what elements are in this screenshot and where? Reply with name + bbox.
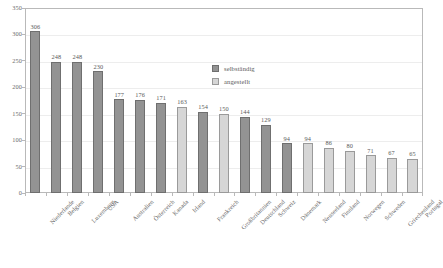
x-axis-tick	[339, 193, 340, 196]
x-axis-tick	[297, 193, 298, 196]
bar[interactable]	[198, 112, 208, 193]
bar[interactable]	[51, 62, 61, 193]
bar-value-label: 248	[64, 53, 90, 60]
bar-value-label: 306	[22, 23, 48, 30]
bar[interactable]	[93, 71, 103, 193]
x-axis-tick	[151, 193, 152, 196]
bar-group: 154	[198, 8, 208, 193]
bar[interactable]	[177, 107, 187, 193]
y-axis-tick: 200	[0, 82, 25, 92]
y-axis-tick: 250	[0, 56, 25, 66]
x-axis-tick	[402, 193, 403, 196]
bar[interactable]	[282, 143, 292, 193]
x-axis: NiederlandeBelgienLuxemburgUSAAustralien…	[25, 193, 423, 268]
x-axis-tick	[25, 193, 26, 196]
x-axis-label: Schweden	[382, 198, 406, 222]
bar-group: 94	[303, 8, 313, 193]
legend-swatch-icon	[212, 65, 219, 72]
x-axis-tick	[67, 193, 68, 196]
bar[interactable]	[114, 99, 124, 193]
legend-item-label: angestellt	[224, 78, 250, 85]
bar[interactable]	[219, 114, 229, 193]
bar-group: 144	[240, 8, 250, 193]
bar-group: 94	[282, 8, 292, 193]
x-axis-tick	[360, 193, 361, 196]
x-axis-tick	[88, 193, 89, 196]
bar-group: 80	[345, 8, 355, 193]
y-axis-tick: 300	[0, 29, 25, 39]
x-axis-label: Australien	[131, 198, 155, 222]
bar-group: 248	[72, 8, 82, 193]
y-axis-tick: 100	[0, 135, 25, 145]
y-axis-tick: 350	[0, 3, 25, 13]
x-axis-tick	[276, 193, 277, 196]
legend-item[interactable]: angestellt	[212, 75, 302, 88]
bar-group: 177	[114, 8, 124, 193]
x-axis-tick	[109, 193, 110, 196]
y-axis: 050100150200250300350	[0, 8, 25, 193]
legend-item-label: selbständig	[224, 65, 255, 72]
y-axis-tick-label: 50	[16, 162, 26, 172]
bar-value-label: 129	[253, 116, 279, 123]
bar-group: 129	[261, 8, 271, 193]
bar-group: 176	[135, 8, 145, 193]
bar[interactable]	[135, 100, 145, 193]
x-axis-label: Frankreich	[215, 198, 240, 223]
y-axis-tick-label: 250	[12, 56, 25, 66]
legend-swatch-icon	[212, 78, 219, 85]
x-axis-tick	[46, 193, 47, 196]
x-axis-label: Norwegen	[361, 198, 385, 222]
y-axis-tick: 50	[0, 162, 25, 172]
bar-group: 248	[51, 8, 61, 193]
y-axis-tick-label: 150	[12, 109, 25, 119]
x-axis-tick	[214, 193, 215, 196]
x-axis-tick	[255, 193, 256, 196]
bar-group: 65	[407, 8, 417, 193]
x-axis-tick	[130, 193, 131, 196]
bar-group: 67	[387, 8, 397, 193]
bar-value-label: 230	[85, 63, 111, 70]
bar-group: 230	[93, 8, 103, 193]
bar-group: 163	[177, 8, 187, 193]
bar[interactable]	[345, 151, 355, 193]
bar[interactable]	[366, 155, 376, 193]
bar-group: 86	[324, 8, 334, 193]
y-axis-tick-label: 350	[12, 3, 25, 13]
chart-legend: selbständigangestellt	[212, 62, 302, 88]
x-axis-tick	[193, 193, 194, 196]
bar[interactable]	[30, 31, 40, 193]
bar-group: 150	[219, 8, 229, 193]
x-axis-tick	[318, 193, 319, 196]
legend-item[interactable]: selbständig	[212, 62, 302, 75]
y-axis-tick-label: 200	[12, 82, 25, 92]
bar[interactable]	[240, 117, 250, 193]
y-axis-tick: 0	[0, 188, 25, 198]
bar[interactable]	[261, 125, 271, 193]
x-axis-tick	[422, 193, 423, 196]
bar[interactable]	[303, 143, 313, 193]
y-axis-tick-label: 300	[12, 29, 25, 39]
bar[interactable]	[407, 159, 417, 193]
bar-group: 306	[30, 8, 40, 193]
bar[interactable]	[324, 148, 334, 193]
x-axis-tick	[234, 193, 235, 196]
bar-group: 171	[156, 8, 166, 193]
x-axis-label: Irland	[191, 198, 207, 214]
bar[interactable]	[72, 62, 82, 193]
bar-group: 71	[366, 8, 376, 193]
x-axis-tick	[172, 193, 173, 196]
bar[interactable]	[156, 103, 166, 193]
y-axis-tick: 150	[0, 109, 25, 119]
bars-layer: 3062482482301771761711631541501441299494…	[25, 8, 423, 193]
x-axis-tick	[381, 193, 382, 196]
bar-value-label: 65	[399, 150, 425, 157]
x-axis-label: Dänemark	[299, 198, 323, 222]
bar-value-label: 144	[232, 108, 258, 115]
bar[interactable]	[387, 158, 397, 193]
y-axis-tick-label: 100	[12, 135, 25, 145]
